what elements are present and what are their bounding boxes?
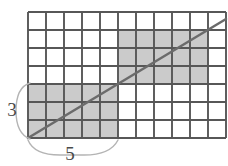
run-label: 5 (65, 143, 75, 164)
rise-label: 3 (7, 99, 17, 120)
figure-canvas: 3 5 (0, 0, 228, 166)
slope-grid-figure: 3 5 (0, 0, 228, 166)
